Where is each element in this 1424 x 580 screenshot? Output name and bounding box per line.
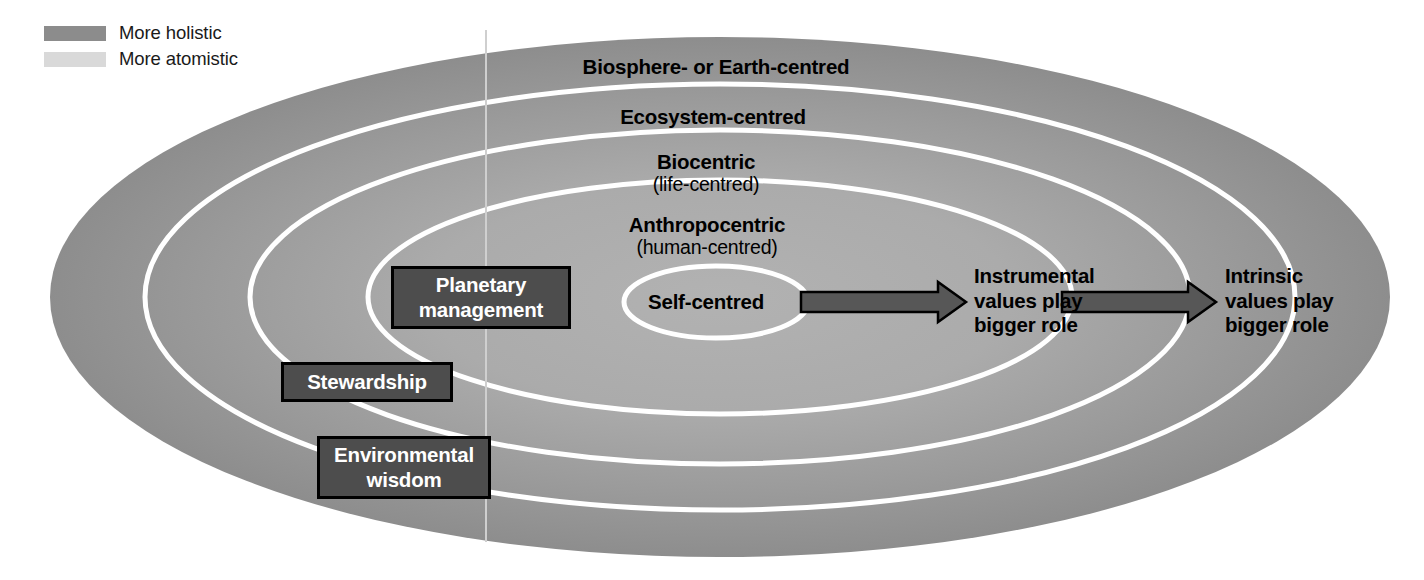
callout-environmental-line2: wisdom [366, 468, 441, 491]
callout-planetary-management[interactable]: Planetary management [391, 266, 571, 329]
ring-label-biocentric: Biocentric (life-centred) [0, 150, 1418, 196]
ring-label-biocentric-text: Biocentric [0, 150, 1418, 173]
arrow-label-instrumental-line1: Instrumental [974, 264, 1095, 287]
arrow-label-intrinsic-line2: values play [1225, 289, 1333, 312]
ring-label-anthropocentric-text: Anthropocentric [0, 213, 1419, 236]
ring-label-anthropocentric: Anthropocentric (human-centred) [0, 213, 1419, 259]
callout-environmental-wisdom[interactable]: Environmental wisdom [317, 436, 491, 499]
legend-swatch-holistic-icon [44, 26, 106, 41]
ring-label-anthropocentric-subtext: (human-centred) [0, 236, 1419, 258]
diagram-canvas: Biosphere- or Earth-centred Ecosystem-ce… [0, 0, 1424, 580]
legend-item-atomistic: More atomistic [44, 48, 238, 70]
ring-label-self-centred-text: Self-centred [0, 290, 1418, 313]
arrow-label-instrumental-values: Instrumental values play bigger role [974, 264, 1095, 338]
legend-item-holistic: More holistic [44, 22, 238, 44]
ring-label-ecosystem-text: Ecosystem-centred [1, 105, 1424, 128]
ring-label-ecosystem: Ecosystem-centred [1, 105, 1424, 128]
callout-stewardship[interactable]: Stewardship [281, 362, 453, 402]
arrow-label-intrinsic-values: Intrinsic values play bigger role [1225, 264, 1333, 338]
ring-label-self-centred: Self-centred [0, 290, 1418, 313]
callout-planetary-line1: Planetary [436, 273, 527, 296]
arrow-label-intrinsic-line3: bigger role [1225, 313, 1329, 336]
legend: More holistic More atomistic [44, 22, 238, 74]
ring-label-biocentric-subtext: (life-centred) [0, 173, 1418, 195]
legend-label-holistic: More holistic [119, 22, 222, 44]
legend-swatch-atomistic-icon [44, 52, 106, 67]
callout-planetary-line2: management [419, 298, 543, 321]
arrow-label-instrumental-line3: bigger role [974, 313, 1078, 336]
arrow-label-intrinsic-line1: Intrinsic [1225, 264, 1303, 287]
legend-label-atomistic: More atomistic [119, 48, 238, 70]
arrow-label-instrumental-line2: values play [974, 289, 1082, 312]
callout-stewardship-line1: Stewardship [307, 370, 427, 393]
callout-environmental-line1: Environmental [334, 443, 474, 466]
